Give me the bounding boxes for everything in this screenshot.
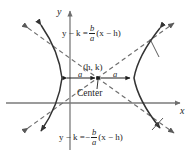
center-text-label: Center — [77, 89, 102, 99]
upper-eq-fraction: ba — [89, 24, 95, 43]
center-coordinates-label: (h, k) — [83, 63, 103, 72]
upper-equation-leader-line — [150, 39, 159, 57]
upper-eq-lhs: y − k = — [62, 28, 88, 38]
lower-asymptote-equation: y − k =−ba(x − h) — [59, 128, 123, 147]
lower-eq-lhs: y − k = — [59, 132, 85, 142]
lower-eq-fraction: ba — [91, 128, 97, 147]
lower-eq-rhs: (x − h) — [98, 132, 123, 142]
center-point-dot — [96, 76, 100, 80]
hyperbola-right-branch — [134, 28, 160, 128]
upper-eq-numerator: b — [89, 24, 95, 33]
lower-eq-numerator: b — [91, 128, 97, 137]
semi-axis-a-left-label: a — [78, 70, 82, 79]
hyperbola-figure: y x y − k =ba(x − h) y − k =−ba(x − h) (… — [0, 0, 190, 156]
upper-asymptote-equation: y − k =ba(x − h) — [62, 24, 121, 43]
y-axis-label: y — [57, 7, 61, 17]
upper-eq-denominator: a — [89, 34, 95, 43]
lower-eq-denominator: a — [91, 138, 97, 147]
semi-axis-a-right-label: a — [113, 70, 117, 79]
upper-eq-rhs: (x − h) — [96, 28, 121, 38]
x-axis-label: x — [180, 106, 184, 116]
hyperbola-left-branch — [41, 25, 62, 131]
lower-eq-sign: − — [85, 132, 90, 142]
